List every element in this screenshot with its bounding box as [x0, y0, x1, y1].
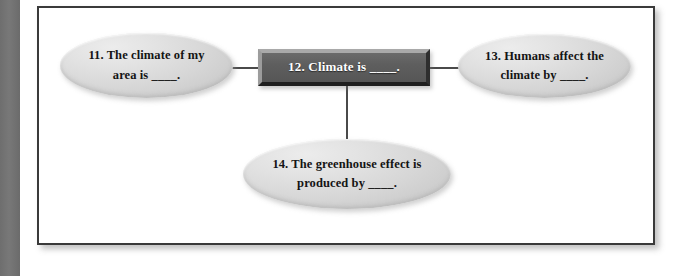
concept-node-14-label: 14. The greenhouse effect is produced by…: [260, 155, 433, 194]
concept-node-14-line1: 14. The greenhouse effect is: [272, 157, 421, 171]
concept-node-14[interactable]: 14. The greenhouse effect is produced by…: [243, 139, 451, 209]
concept-node-13-line1: 13. Humans affect the: [485, 49, 604, 63]
concept-map-canvas: 11. The climate of my area is ____. 12. …: [0, 0, 690, 276]
concept-node-13-label: 13. Humans affect the climate by ____.: [473, 47, 616, 86]
connector-center-to-bottom: [346, 83, 348, 141]
concept-node-11[interactable]: 11. The climate of my area is ____.: [60, 33, 233, 98]
concept-node-14-line2: produced by ____.: [297, 176, 397, 190]
concept-node-13-line2: climate by ____.: [500, 68, 588, 82]
concept-node-11-line2: area is ____.: [113, 68, 180, 82]
concept-node-12-label: 12. Climate is ____.: [288, 58, 400, 76]
concept-node-11-line1: 11. The climate of my: [88, 48, 204, 62]
concept-node-13[interactable]: 13. Humans affect the climate by ____.: [458, 34, 631, 98]
concept-node-11-label: 11. The climate of my area is ____.: [76, 46, 216, 85]
concept-node-12-center[interactable]: 12. Climate is ____.: [258, 49, 430, 86]
